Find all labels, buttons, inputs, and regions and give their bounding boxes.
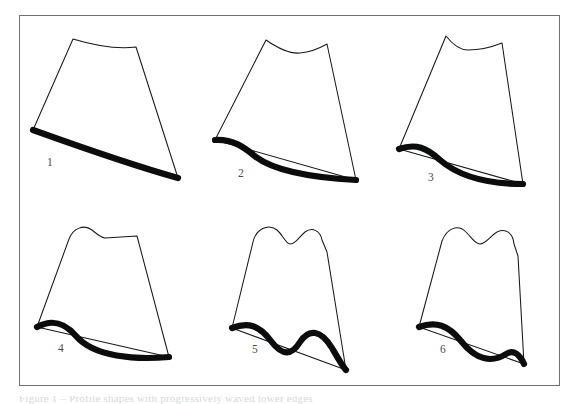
panel-5-group: 5 — [232, 227, 346, 370]
panel-4-group: 4 — [37, 227, 169, 358]
panel-2-group: 2 — [215, 40, 356, 180]
panel-6-label: 6 — [440, 343, 446, 355]
panel-1-group: 1 — [33, 39, 178, 178]
caption-strip: Figure 1 – Profile shapes with progressi… — [19, 396, 560, 404]
panel-3-group: 3 — [399, 36, 523, 184]
panel-6-outline — [419, 228, 524, 364]
caption-text: Figure 1 – Profile shapes with progressi… — [19, 396, 560, 404]
panel-5-label: 5 — [252, 343, 258, 355]
figure-canvas: 1 2 3 4 5 6 — [0, 0, 577, 404]
panel-6-group: 6 — [419, 228, 524, 364]
panel-3-outline — [399, 36, 523, 184]
panel-4-label: 4 — [58, 342, 64, 354]
panel-1-label: 1 — [47, 156, 53, 168]
panel-2-outline — [215, 40, 356, 180]
panel-4-outline — [37, 227, 169, 357]
figure-page: 1 2 3 4 5 6 Figure 1 – Profi — [0, 0, 577, 404]
panel-3-label: 3 — [428, 171, 434, 183]
panel-2-label: 2 — [238, 167, 244, 179]
